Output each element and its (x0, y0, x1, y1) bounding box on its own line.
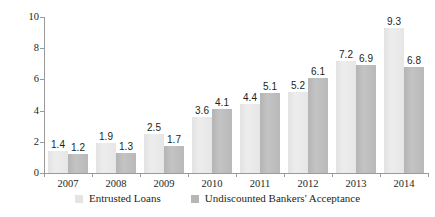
bar-value-label: 1.9 (99, 132, 113, 142)
bar-group: 3.64.12010 (188, 17, 236, 173)
y-tick-label: 6 (34, 74, 39, 85)
x-tick-mark (44, 173, 45, 177)
bar-groups: 1.41.220071.91.320082.51.720093.64.12010… (44, 17, 428, 173)
legend-label: Entrusted Loans (89, 193, 161, 204)
bar-group: 1.41.22007 (44, 17, 92, 173)
bar-entrusted-loans[interactable]: 9.3 (384, 28, 404, 173)
bar-value-label: 5.2 (291, 81, 305, 91)
legend-item[interactable]: Entrusted Loans (75, 193, 161, 204)
bar-pair: 9.36.8 (380, 17, 428, 173)
x-tick-label: 2007 (58, 179, 79, 190)
bar-group: 1.91.32008 (92, 17, 140, 173)
x-tick-label: 2010 (202, 179, 223, 190)
bar-value-label: 6.8 (407, 56, 421, 66)
x-tick-label: 2013 (346, 179, 367, 190)
x-tick-mark (188, 173, 189, 177)
legend-label: Undiscounted Bankers' Acceptance (205, 193, 360, 204)
bar-pair: 2.51.7 (140, 17, 188, 173)
bar-entrusted-loans[interactable]: 5.2 (288, 92, 308, 173)
x-tick-mark (380, 173, 381, 177)
x-tick-mark (428, 173, 429, 177)
bar-undiscounted-acceptance[interactable]: 4.1 (212, 109, 232, 173)
bar-value-label: 7.2 (339, 50, 353, 60)
x-tick-label: 2014 (394, 179, 415, 190)
bar-undiscounted-acceptance[interactable]: 1.3 (116, 153, 136, 173)
legend-item[interactable]: Undiscounted Bankers' Acceptance (191, 193, 360, 204)
bar-value-label: 1.7 (167, 135, 181, 145)
plot-area: 0246810 1.41.220071.91.320082.51.720093.… (44, 17, 428, 173)
bar-value-label: 2.5 (147, 123, 161, 133)
legend-swatch-icon (191, 195, 199, 203)
bar-entrusted-loans[interactable]: 7.2 (336, 61, 356, 173)
x-tick-mark (92, 173, 93, 177)
bar-entrusted-loans[interactable]: 1.4 (48, 151, 68, 173)
y-tick-label: 2 (34, 137, 39, 148)
bar-entrusted-loans[interactable]: 1.9 (96, 143, 116, 173)
y-tick-label: 10 (29, 12, 40, 23)
bar-value-label: 1.2 (71, 143, 85, 153)
x-tick-mark (236, 173, 237, 177)
legend-swatch-icon (75, 195, 83, 203)
bar-undiscounted-acceptance[interactable]: 6.9 (356, 65, 376, 173)
bar-value-label: 1.3 (119, 142, 133, 152)
chart-legend: Entrusted LoansUndiscounted Bankers' Acc… (0, 193, 435, 204)
bar-pair: 5.26.1 (284, 17, 332, 173)
bar-value-label: 6.9 (359, 54, 373, 64)
bar-pair: 1.41.2 (44, 17, 92, 173)
bar-value-label: 6.1 (311, 67, 325, 77)
x-tick-label: 2008 (106, 179, 127, 190)
bar-entrusted-loans[interactable]: 4.4 (240, 104, 260, 173)
x-tick-label: 2012 (298, 179, 319, 190)
bar-value-label: 9.3 (387, 17, 401, 27)
bar-pair: 4.45.1 (236, 17, 284, 173)
bar-pair: 1.91.3 (92, 17, 140, 173)
bar-entrusted-loans[interactable]: 3.6 (192, 117, 212, 173)
bar-value-label: 1.4 (51, 140, 65, 150)
bar-entrusted-loans[interactable]: 2.5 (144, 134, 164, 173)
bar-chart: 0246810 1.41.220071.91.320082.51.720093.… (0, 0, 435, 217)
bar-undiscounted-acceptance[interactable]: 6.8 (404, 67, 424, 173)
bar-group: 7.26.92013 (332, 17, 380, 173)
bar-undiscounted-acceptance[interactable]: 1.7 (164, 146, 184, 173)
y-tick-label: 8 (34, 43, 39, 54)
x-tick-label: 2009 (154, 179, 175, 190)
bar-group: 5.26.12012 (284, 17, 332, 173)
x-tick-mark (140, 173, 141, 177)
bar-group: 4.45.12011 (236, 17, 284, 173)
bar-group: 2.51.72009 (140, 17, 188, 173)
x-tick-mark (332, 173, 333, 177)
bar-group: 9.36.82014 (380, 17, 428, 173)
y-tick-label: 0 (34, 168, 39, 179)
bar-pair: 7.26.9 (332, 17, 380, 173)
bar-pair: 3.64.1 (188, 17, 236, 173)
bar-undiscounted-acceptance[interactable]: 6.1 (308, 78, 328, 173)
bar-value-label: 4.1 (215, 98, 229, 108)
bar-undiscounted-acceptance[interactable]: 5.1 (260, 93, 280, 173)
x-tick-mark (284, 173, 285, 177)
bar-undiscounted-acceptance[interactable]: 1.2 (68, 154, 88, 173)
bar-value-label: 3.6 (195, 106, 209, 116)
y-tick-label: 4 (34, 105, 39, 116)
x-tick-label: 2011 (250, 179, 271, 190)
bar-value-label: 4.4 (243, 93, 257, 103)
bar-value-label: 5.1 (263, 82, 277, 92)
